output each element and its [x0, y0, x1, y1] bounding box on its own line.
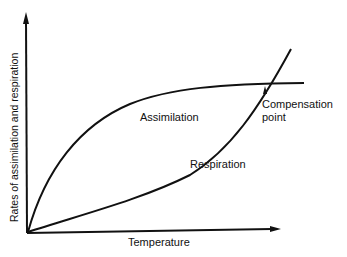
- respiration-curve: [28, 49, 291, 232]
- diagram-canvas: Assimilation Respiration Compensation po…: [0, 0, 347, 257]
- assimilation-label: Assimilation: [140, 111, 199, 123]
- x-axis: [27, 226, 281, 233]
- x-axis-label: Temperature: [128, 236, 190, 248]
- y-axis-label: Rates of assimilation and respiration: [8, 53, 20, 222]
- compensation-point-label-line1: Compensation: [262, 98, 333, 110]
- compensation-point-label-line2: point: [262, 111, 286, 123]
- respiration-label: Respiration: [190, 158, 246, 170]
- y-axis: [23, 12, 29, 233]
